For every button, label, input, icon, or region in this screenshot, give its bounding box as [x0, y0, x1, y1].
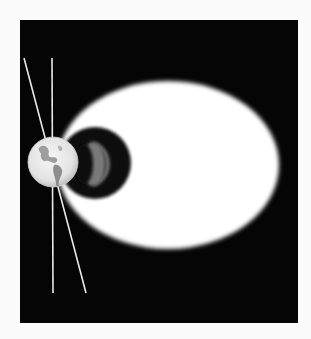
figure-canvas [0, 0, 311, 339]
earth-diagram [0, 0, 311, 339]
earth-globe [28, 137, 78, 188]
